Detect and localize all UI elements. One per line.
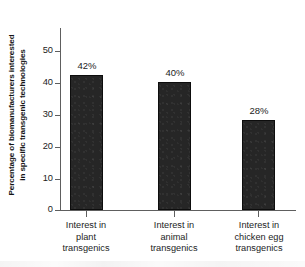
- category-3-line-2: chicken egg: [219, 232, 299, 244]
- y-tick-label-50: 50: [33, 46, 53, 55]
- y-tick-label-20: 20: [33, 142, 53, 151]
- x-axis-category-label-1: Interest in plant transgenics: [47, 220, 125, 255]
- y-axis-title-text: Percentage of biomanufacturers intereste…: [6, 35, 29, 196]
- bar-value-label-animal: 40%: [154, 68, 196, 78]
- x-axis-category-label-2: Interest in animal transgenics: [135, 220, 213, 255]
- y-tick-mark-20: [55, 147, 60, 148]
- category-1-line-1: Interest in: [47, 220, 125, 232]
- category-2-line-1: Interest in: [135, 220, 213, 232]
- y-axis-line: [60, 28, 61, 211]
- y-tick-mark-0: [55, 210, 60, 211]
- y-tick-label-40: 40: [33, 78, 53, 87]
- bar-plant-transgenics: [70, 75, 103, 210]
- y-tick-mark-10: [55, 179, 60, 180]
- y-axis-title-line-1: Percentage of biomanufacturers intereste…: [6, 35, 17, 196]
- category-2-line-2: animal: [135, 232, 213, 244]
- scan-artifact: [0, 261, 305, 267]
- bar-chicken-egg-transgenics: [242, 120, 275, 210]
- category-1-line-3: transgenics: [47, 243, 125, 255]
- bar-value-label-plant: 42%: [66, 61, 108, 71]
- y-tick-label-10: 10: [33, 174, 53, 183]
- y-axis-title: Percentage of biomanufacturers intereste…: [0, 0, 34, 230]
- x-tick-mark-2: [174, 211, 175, 217]
- category-1-line-2: plant: [47, 232, 125, 244]
- category-3-line-3: transgenics: [219, 243, 299, 255]
- y-tick-label-30: 30: [33, 110, 53, 119]
- y-tick-mark-50: [55, 51, 60, 52]
- bar-value-label-chicken-egg: 28%: [238, 106, 280, 116]
- y-tick-mark-40: [55, 83, 60, 84]
- y-axis-title-line-2: in specific transgenic technologies: [17, 35, 28, 196]
- y-tick-label-0: 0: [33, 205, 53, 214]
- category-2-line-3: transgenics: [135, 243, 213, 255]
- x-axis-line: [60, 210, 296, 211]
- category-3-line-1: Interest in: [219, 220, 299, 232]
- bar-chart-figure: Percentage of biomanufacturers intereste…: [0, 0, 305, 267]
- bar-animal-transgenics: [158, 82, 191, 210]
- x-tick-mark-3: [258, 211, 259, 217]
- x-tick-mark-1: [86, 211, 87, 217]
- y-tick-mark-30: [55, 115, 60, 116]
- x-axis-category-label-3: Interest in chicken egg transgenics: [219, 220, 299, 255]
